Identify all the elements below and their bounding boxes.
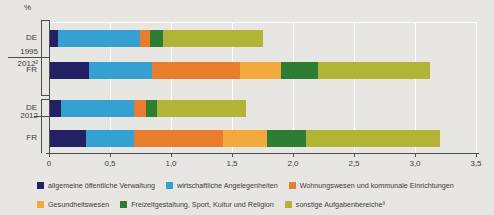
bar-segment-gesundheitswesen	[223, 130, 267, 147]
legend-item-gesundheitswesen: Gesundheitswesen	[37, 200, 109, 209]
bar-segment-wohnungswesen-und-kommunale-einrichtungen	[134, 130, 223, 147]
legend-marker-olive	[285, 201, 292, 208]
bar-segment-sonstige-aufgabenbereiche	[318, 62, 430, 79]
bar-de-1995	[49, 30, 263, 47]
x-axis-tick	[49, 153, 50, 157]
row-label-de-group1: DE	[0, 33, 37, 42]
x-tick-label: 3,0	[409, 159, 420, 168]
y-axis-line	[49, 20, 50, 153]
legend-label: sonstige Aufgabenbereiche³	[296, 200, 385, 209]
legend-marker-green	[120, 201, 127, 208]
group1-bracket-bottom-tick	[41, 95, 49, 96]
bar-segment-allgemeine-oeffentliche-verwaltung	[49, 62, 89, 79]
x-tick-label: 3,5	[470, 159, 481, 168]
legend-marker-yellow	[37, 201, 44, 208]
legend-label: Wohnungswesen und kommunale Einrichtunge…	[300, 181, 454, 190]
x-tick-label: 2,5	[348, 159, 359, 168]
bar-segment-wohnungswesen-und-kommunale-einrichtungen	[134, 100, 146, 117]
bar-de-2012	[49, 100, 246, 117]
x-axis-tick	[476, 153, 477, 157]
legend-item-wohnungswesen: Wohnungswesen und kommunale Einrichtunge…	[289, 181, 454, 190]
y-axis-unit-label: %	[24, 3, 31, 12]
bar-segment-freizeitgestaltung-sport-kultur-religion	[146, 100, 157, 117]
x-tick-label: 1,0	[165, 159, 176, 168]
bar-segment-wohnungswesen-und-kommunale-einrichtungen	[152, 62, 240, 79]
x-axis-tick	[293, 153, 294, 157]
bar-segment-allgemeine-oeffentliche-verwaltung	[49, 30, 58, 47]
x-tick-label: 2,0	[287, 159, 298, 168]
figure: % DE 1995 2012² FR DE 2012 FR allgemeine…	[0, 0, 494, 215]
legend-item-sonstige-aufgabenbereiche: sonstige Aufgabenbereiche³	[285, 200, 385, 209]
bar-segment-allgemeine-oeffentliche-verwaltung	[49, 130, 86, 147]
bar-segment-sonstige-aufgabenbereiche	[306, 130, 440, 147]
bar-segment-sonstige-aufgabenbereiche	[157, 100, 246, 117]
legend-item-wirtschaftliche-angelegenheiten: wirtschaftliche Angelegenheiten	[166, 181, 278, 190]
legend-marker-navy	[37, 182, 44, 189]
group1-bracket-top-tick	[41, 20, 49, 21]
legend-item-freizeitgestaltung: Freizeitgestaltung, Sport, Kultur und Re…	[120, 200, 274, 209]
x-axis-tick	[171, 153, 172, 157]
x-axis-tick	[110, 153, 111, 157]
group2-bracket	[41, 99, 42, 153]
bar-segment-wirtschaftliche-angelegenheiten	[86, 130, 134, 147]
bar-segment-wirtschaftliche-angelegenheiten	[89, 62, 152, 79]
x-tick-label: 0	[47, 159, 51, 168]
legend-label: wirtschaftliche Angelegenheiten	[177, 181, 278, 190]
legend-item-allgemeine-verwaltung: allgemeine öffentliche Verwaltung	[37, 181, 155, 190]
group1-bracket-middle-tick	[8, 57, 49, 58]
legend-label: Gesundheitswesen	[48, 200, 109, 209]
gridline	[476, 23, 477, 154]
row-label-fr-group1: FR	[0, 65, 37, 74]
x-tick-label: 0,5	[104, 159, 115, 168]
bar-segment-freizeitgestaltung-sport-kultur-religion	[281, 62, 318, 79]
row-label-fr-group2: FR	[0, 133, 37, 142]
legend: allgemeine öffentliche Verwaltung wirtsc…	[37, 181, 489, 209]
legend-marker-orange	[289, 182, 296, 189]
x-axis-tick	[354, 153, 355, 157]
group2-period-label: 2012	[0, 111, 38, 120]
group2-bracket-top-tick	[41, 99, 49, 100]
legend-marker-blue	[166, 182, 173, 189]
legend-label: allgemeine öffentliche Verwaltung	[48, 181, 155, 190]
bar-segment-wohnungswesen-und-kommunale-einrichtungen	[140, 30, 150, 47]
plot-area	[49, 22, 477, 154]
bar-fr-2012sup2	[49, 62, 430, 79]
bar-segment-gesundheitswesen	[240, 62, 281, 79]
bar-segment-freizeitgestaltung-sport-kultur-religion	[150, 30, 163, 47]
bar-segment-wirtschaftliche-angelegenheiten	[61, 100, 134, 117]
x-axis-tick	[415, 153, 416, 157]
group1-period-line1: 1995	[0, 47, 38, 56]
bar-segment-freizeitgestaltung-sport-kultur-religion	[267, 130, 306, 147]
bar-segment-wirtschaftliche-angelegenheiten	[58, 30, 140, 47]
legend-label: Freizeitgestaltung, Sport, Kultur und Re…	[131, 200, 274, 209]
bar-fr-2012	[49, 130, 440, 147]
x-tick-label: 1,5	[226, 159, 237, 168]
x-axis-tick	[232, 153, 233, 157]
bar-segment-sonstige-aufgabenbereiche	[163, 30, 263, 47]
bar-segment-allgemeine-oeffentliche-verwaltung	[49, 100, 61, 117]
